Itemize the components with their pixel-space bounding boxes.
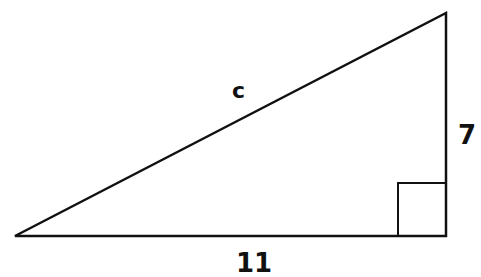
right-triangle <box>15 13 446 236</box>
hypotenuse-label: c <box>232 80 245 102</box>
vertical-leg-label: 7 <box>458 122 476 148</box>
horizontal-leg-label: 11 <box>236 250 272 276</box>
right-angle-marker <box>398 183 446 236</box>
triangle-figure <box>0 0 481 277</box>
